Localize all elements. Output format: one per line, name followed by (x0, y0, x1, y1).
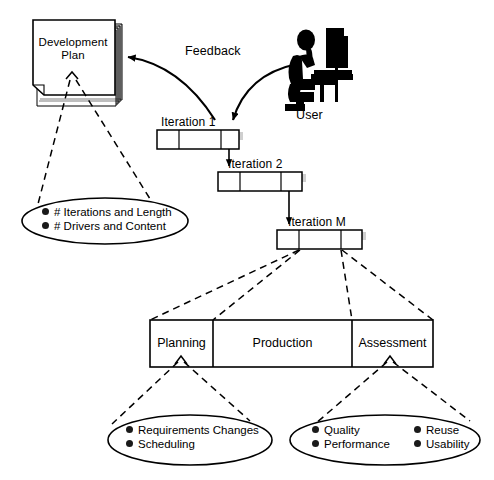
assessment-callout-list: Quality Performance Reuse Usability (312, 424, 488, 452)
bullet-dot-icon (312, 440, 319, 447)
iteration-2-bar (218, 172, 306, 191)
list-item-label: Scheduling (138, 438, 195, 450)
phase-planning-label: Planning (150, 336, 213, 350)
list-item: Reuse (414, 424, 488, 436)
feedback-arrow-to-plan (128, 57, 215, 120)
list-item: Usability (414, 438, 488, 450)
assessment-callout-column-right: Reuse Usability (414, 424, 488, 452)
feedback-label: Feedback (185, 44, 241, 58)
list-item: Quality (312, 424, 396, 436)
feedback-arrow-to-iteration1 (233, 64, 297, 120)
list-item-label: # Drivers and Content (54, 220, 166, 232)
bullet-dot-icon (312, 426, 319, 433)
bullet-dot-icon (414, 440, 421, 447)
list-item-label: Usability (426, 438, 469, 450)
process-diagram: Development Plan Feedback User Iteration… (0, 0, 494, 480)
bullet-dot-icon (414, 426, 421, 433)
development-plan-label: Development Plan (34, 36, 112, 62)
assessment-callout-column-left: Quality Performance (312, 424, 396, 452)
development-plan-line1: Development (39, 36, 108, 48)
development-plan-stack (33, 20, 122, 106)
bullet-dot-icon (126, 440, 133, 447)
iteration-1-bar (157, 130, 243, 149)
phase-production-label: Production (213, 336, 352, 350)
list-item: Performance (312, 438, 396, 450)
list-item: # Iterations and Length (42, 206, 172, 218)
iteration-2-label: Iteration 2 (228, 158, 282, 171)
iteration-m-bar (277, 230, 366, 249)
phase-assessment-label: Assessment (352, 336, 433, 350)
iteration-1-label: Iteration 1 (161, 116, 215, 129)
bullet-dot-icon (126, 426, 133, 433)
list-item: Requirements Changes (126, 424, 259, 436)
bullet-dot-icon (42, 208, 49, 215)
list-item: # Drivers and Content (42, 220, 172, 232)
callout-lines-iteration-m (150, 250, 433, 320)
diagram-canvas (0, 0, 494, 480)
user-at-computer-icon (285, 28, 353, 111)
development-plan-callout-list: # Iterations and Length # Drivers and Co… (42, 206, 172, 234)
list-item: Scheduling (126, 438, 259, 450)
list-item-label: Performance (324, 438, 390, 450)
bullet-dot-icon (42, 222, 49, 229)
planning-callout-list: Requirements Changes Scheduling (126, 424, 259, 452)
list-item-label: Requirements Changes (138, 424, 259, 436)
list-item-label: Quality (324, 424, 360, 436)
user-label: User (296, 108, 323, 122)
list-item-label: Reuse (426, 424, 459, 436)
development-plan-line2: Plan (61, 49, 84, 61)
list-item-label: # Iterations and Length (54, 206, 172, 218)
iteration-m-label: Iteration M (288, 216, 346, 229)
